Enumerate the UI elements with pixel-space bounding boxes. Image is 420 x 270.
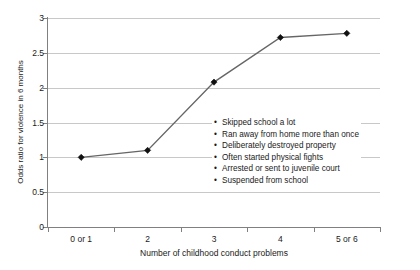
data-point-marker bbox=[78, 154, 84, 160]
annotation-item: •Skipped school a lot bbox=[214, 117, 359, 129]
bullet-icon: • bbox=[214, 152, 217, 164]
bullet-icon: • bbox=[214, 175, 217, 187]
annotation-list: •Skipped school a lot•Ran away from home… bbox=[214, 117, 359, 187]
annotation-item: •Arrested or sent to juvenile court bbox=[214, 163, 359, 175]
annotation-item-label: Deliberately destroyed property bbox=[222, 141, 336, 150]
annotation-item: •Often started physical fights bbox=[214, 152, 359, 164]
annotation-item: •Deliberately destroyed property bbox=[214, 140, 359, 152]
annotation-item-label: Ran away from home more than once bbox=[222, 130, 359, 139]
annotation-item: •Ran away from home more than once bbox=[214, 129, 359, 141]
annotation-item-label: Suspended from school bbox=[222, 176, 308, 185]
annotation-item-label: Arrested or sent to juvenile court bbox=[222, 164, 340, 173]
conduct-problems-annotation: •Skipped school a lot•Ran away from home… bbox=[212, 116, 361, 189]
chart-figure: Odds ratio for violence in 6 months 00.5… bbox=[0, 0, 420, 270]
bullet-icon: • bbox=[214, 140, 217, 152]
annotation-item-label: Often started physical fights bbox=[222, 153, 323, 162]
annotation-item: •Suspended from school bbox=[214, 175, 359, 187]
bullet-icon: • bbox=[214, 163, 217, 175]
annotation-item-label: Skipped school a lot bbox=[222, 118, 295, 127]
x-axis-title: Number of childhood conduct problems bbox=[48, 248, 380, 258]
data-point-marker bbox=[344, 30, 350, 36]
bullet-icon: • bbox=[214, 129, 217, 141]
bullet-icon: • bbox=[214, 117, 217, 129]
